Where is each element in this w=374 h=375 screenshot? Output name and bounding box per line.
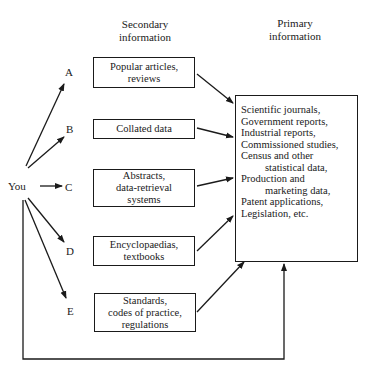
primary-line: Industrial reports, [241,127,357,139]
primary-line: Production and [241,173,357,185]
primary-line: Scientific journals, [241,104,357,116]
primary-line: statistical data, [241,162,357,174]
primary-line: Patent applications, [241,196,357,208]
route-letter-a: A [65,66,73,78]
primary-line: Census and other [241,150,357,162]
route-letter-d: D [66,245,74,257]
primary-line: marketing data, [241,185,357,197]
primary-line: Government reports, [241,116,357,128]
box-collated-data: Collated data [93,119,195,139]
route-letter-b: B [66,123,73,135]
box-encyclopaedias: Encyclopaedias, textbooks [93,236,195,266]
secondary-information-header: Secondary information [100,18,190,44]
you-label: You [8,180,26,192]
primary-line: Legislation, etc. [241,208,357,220]
route-letter-c: C [65,181,72,193]
primary-information-header: Primary information [250,17,340,43]
box-popular-articles: Popular articles, reviews [93,57,195,88]
primary-information-box: Scientific journals, Government reports,… [235,95,358,262]
box-standards: Standards, codes of practice, regulation… [94,293,196,332]
route-letter-e: E [67,305,74,317]
primary-line: Commissioned studies, [241,139,357,151]
box-abstracts: Abstracts, data-retrieval systems [93,169,195,207]
